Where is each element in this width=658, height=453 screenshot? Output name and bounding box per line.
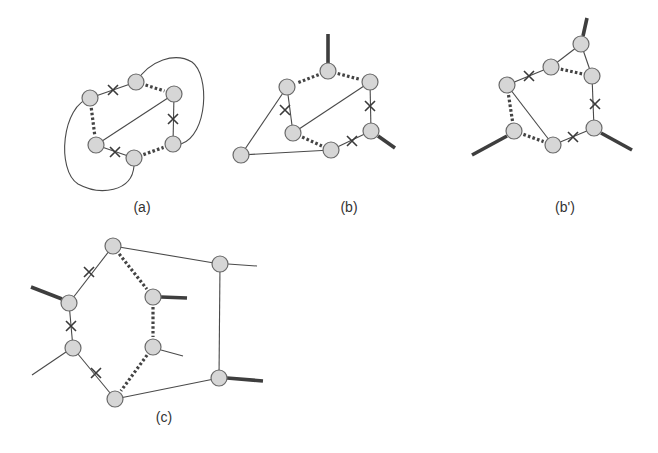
thick-external-edge [583, 18, 587, 36]
graph-node [145, 339, 161, 355]
graph-node [543, 59, 559, 75]
graph-node [128, 74, 144, 90]
panel-label-a: (a) [133, 199, 150, 215]
thin-external-edge [32, 352, 66, 375]
dotted-edge [146, 85, 165, 91]
graph-node [65, 340, 81, 356]
cross-mark-icon [568, 132, 578, 142]
solid-edge [115, 378, 219, 399]
labels-layer: (a) (b) (b') (c) [133, 199, 574, 425]
graph-node [362, 74, 378, 90]
solid-edge [293, 82, 370, 133]
cross-mark-icon [280, 105, 290, 115]
solid-edge [96, 94, 174, 145]
dotted-edge [523, 134, 543, 141]
dotted-edge [509, 95, 513, 121]
graph-node [506, 123, 522, 139]
graph-node [279, 79, 295, 95]
dotted-edge [119, 254, 147, 289]
panel-a-nodes [82, 74, 182, 166]
dotted-edge [91, 108, 94, 135]
graph-node [88, 137, 104, 153]
panel-c [31, 246, 263, 399]
thick-external-edge [161, 297, 187, 298]
graph-node [323, 142, 339, 158]
thick-external-edge [378, 136, 395, 148]
dotted-edge [561, 69, 582, 74]
graph-node [166, 86, 182, 102]
thick-external-edge [227, 378, 263, 381]
graph-node [573, 36, 589, 52]
graph-node [233, 147, 249, 163]
solid-edge [219, 264, 220, 378]
panel-label-b: (b) [340, 199, 357, 215]
cross-mark-icon [110, 147, 120, 157]
solid-edge [241, 87, 287, 155]
thick-external-edge [472, 136, 507, 155]
solid-edge [241, 150, 331, 155]
graph-diagram-figure: (a) (b) (b') (c) [0, 0, 658, 453]
graph-node [82, 90, 98, 106]
graph-node [586, 120, 602, 136]
cross-mark-icon [524, 71, 534, 81]
graph-node [545, 137, 561, 153]
panel-label-b-prime: (b') [555, 199, 575, 215]
panel-b_prime [472, 18, 632, 155]
graph-node [584, 68, 600, 84]
graph-node [499, 77, 515, 93]
dotted-edge [338, 74, 361, 80]
dotted-edge [296, 75, 318, 84]
thin-external-edge [161, 350, 183, 356]
graph-node [363, 123, 379, 139]
cross-mark-icon [590, 99, 600, 109]
thick-external-edge [601, 133, 632, 150]
thin-external-edge [228, 264, 257, 266]
graph-node [320, 63, 336, 79]
cross-mark-icon [108, 85, 118, 95]
dotted-edge [143, 147, 163, 154]
cross-mark-icon [347, 136, 357, 146]
graph-node [61, 295, 77, 311]
graph-node [105, 238, 121, 254]
thick-external-edge [31, 287, 62, 299]
graph-node [211, 370, 227, 386]
graph-node [285, 125, 301, 141]
solid-edge [113, 246, 220, 264]
nodes-layer [61, 36, 602, 407]
dotted-edge [121, 355, 147, 391]
graph-node [107, 391, 123, 407]
solid-edge [73, 348, 115, 399]
graph-node [126, 150, 142, 166]
dotted-edge [302, 137, 322, 146]
graph-node [165, 136, 181, 152]
panel-label-c: (c) [156, 409, 172, 425]
graph-node [145, 289, 161, 305]
graph-node [212, 256, 228, 272]
